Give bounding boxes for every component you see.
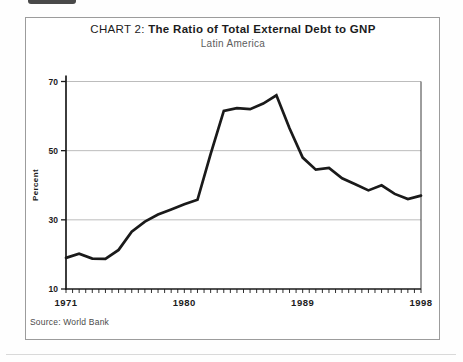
x-tick-label-1971: 1971	[54, 297, 77, 308]
y-axis-label: Percent	[31, 169, 40, 201]
debt-to-gnp-line-chart: 103050701971198019891998Percent	[0, 0, 463, 362]
y-tick-label-30: 30	[49, 215, 59, 225]
source-text: Source: World Bank	[30, 317, 109, 327]
x-tick-label-1989: 1989	[291, 297, 314, 308]
x-tick-label-1998: 1998	[409, 297, 432, 308]
y-tick-label-70: 70	[49, 77, 59, 87]
y-tick-label-50: 50	[49, 146, 59, 156]
debt-ratio-series-line	[66, 95, 421, 259]
page: { "header": { "title_prefix": "CHART 2:"…	[0, 0, 463, 362]
x-tick-label-1980: 1980	[173, 297, 196, 308]
y-tick-label-10: 10	[49, 284, 59, 294]
